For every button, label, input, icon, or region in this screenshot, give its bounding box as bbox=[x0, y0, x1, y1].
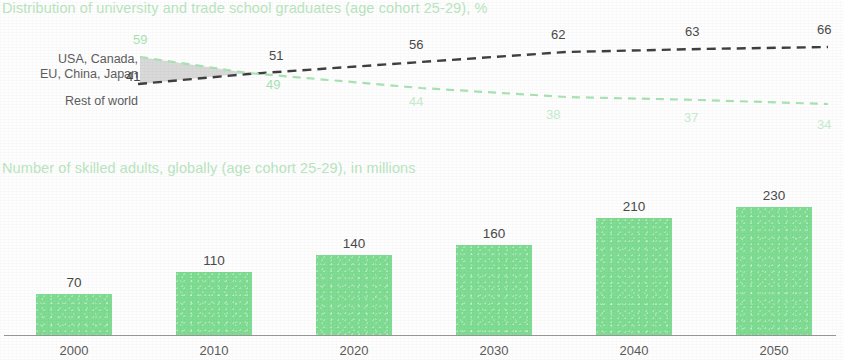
series-rest-of-world-line bbox=[138, 47, 828, 84]
line-value-developed-2030: 38 bbox=[546, 107, 560, 122]
line-value-restofworld-2010: 51 bbox=[269, 48, 283, 63]
bar-category-2040: 2040 bbox=[596, 343, 672, 358]
line-chart: USA, Canada, EU, China, Japan Rest of wo… bbox=[0, 18, 844, 143]
line-chart-title: Distribution of university and trade sch… bbox=[2, 0, 487, 16]
bar-2020[interactable] bbox=[316, 255, 392, 335]
bar-value-2010: 110 bbox=[176, 253, 252, 268]
bar-2040[interactable] bbox=[596, 218, 672, 335]
bar-2010[interactable] bbox=[176, 272, 252, 335]
bar-2050[interactable] bbox=[736, 207, 812, 335]
line-value-developed-2020: 44 bbox=[409, 94, 423, 109]
line-value-developed-2010: 49 bbox=[266, 77, 280, 92]
bar-category-2020: 2020 bbox=[316, 343, 392, 358]
bar-value-2020: 140 bbox=[316, 236, 392, 251]
legend-label-rest-of-world: Rest of world bbox=[65, 94, 138, 109]
line-value-developed-2000: 59 bbox=[133, 32, 147, 47]
bar-value-2040: 210 bbox=[596, 199, 672, 214]
infographic-page: Distribution of university and trade sch… bbox=[0, 0, 844, 360]
bar-value-2050: 230 bbox=[736, 188, 812, 203]
bar-category-2000: 2000 bbox=[36, 343, 112, 358]
legend-label-developed: USA, Canada, EU, China, Japan bbox=[40, 52, 138, 82]
bar-category-2050: 2050 bbox=[736, 343, 812, 358]
bar-chart-title: Number of skilled adults, globally (age … bbox=[2, 160, 416, 176]
line-value-developed-2040: 37 bbox=[684, 110, 698, 125]
bar-chart: 70 2000 110 2010 140 2020 160 2030 210 2… bbox=[0, 180, 844, 360]
legend-label-developed-line1: USA, Canada, bbox=[58, 52, 138, 66]
line-value-restofworld-2050: 66 bbox=[817, 22, 831, 37]
bar-category-2030: 2030 bbox=[456, 343, 532, 358]
line-value-restofworld-2000: 41 bbox=[126, 69, 140, 84]
series-gap-wedge bbox=[140, 57, 248, 84]
line-value-developed-2050: 34 bbox=[817, 117, 831, 132]
line-value-restofworld-2020: 56 bbox=[409, 37, 423, 52]
bar-2030[interactable] bbox=[456, 245, 532, 335]
bar-category-2010: 2010 bbox=[176, 343, 252, 358]
line-value-restofworld-2040: 63 bbox=[685, 24, 699, 39]
bar-2000[interactable] bbox=[36, 294, 112, 335]
legend-label-developed-line2: EU, China, Japan bbox=[40, 67, 138, 81]
line-value-restofworld-2030: 62 bbox=[551, 27, 565, 42]
bar-value-2000: 70 bbox=[36, 275, 112, 290]
bar-value-2030: 160 bbox=[456, 226, 532, 241]
x-axis-line bbox=[4, 335, 836, 337]
series-developed-line bbox=[140, 57, 828, 104]
